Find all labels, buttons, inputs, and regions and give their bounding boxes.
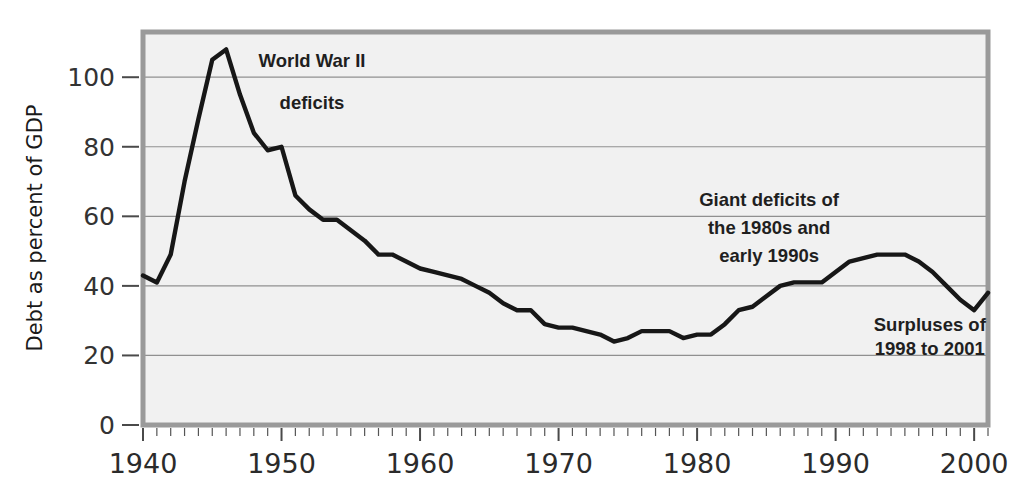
annotation-giant-deficits-line-1: Giant deficits of [699,189,840,210]
y-tick-label-40: 40 [83,272,115,301]
y-tick-label-60: 60 [83,202,115,231]
x-axis-ticks: 1940195019601970198019902000 [109,428,1009,479]
x-tick-label-1980: 1980 [663,448,732,479]
x-tick-label-1960: 1960 [386,448,455,479]
annotation-surpluses-line-2: 1998 to 2001 [875,338,985,359]
plot-area-background [143,32,988,425]
y-tick-label-20: 20 [83,341,115,370]
y-tick-label-0: 0 [99,411,115,440]
annotation-giant-deficits-line-2: the 1980s and [708,217,830,238]
annotation-giant-deficits: Giant deficits ofthe 1980s andearly 1990… [699,189,840,266]
annotation-surpluses-line-1: Surpluses of [874,314,987,335]
x-tick-label-2000: 2000 [940,448,1009,479]
y-axis-label: Debt as percent of GDP [23,105,47,352]
annotation-wwii-line-2: deficits [280,92,345,113]
x-tick-label-1940: 1940 [109,448,178,479]
y-tick-label-80: 80 [83,133,115,162]
y-tick-label-100: 100 [67,63,115,92]
x-tick-label-1990: 1990 [801,448,870,479]
x-tick-label-1950: 1950 [247,448,316,479]
annotation-wwii-line-1: World War II [259,50,366,71]
x-tick-label-1970: 1970 [524,448,593,479]
annotation-giant-deficits-line-3: early 1990s [719,245,819,266]
y-axis-ticks: 020406080100 [67,63,139,440]
debt-gdp-line-chart: 020406080100 194019501960197019801990200… [0,0,1024,500]
